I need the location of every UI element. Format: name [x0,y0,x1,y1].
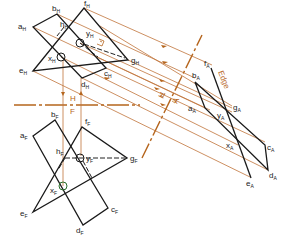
svg-text:bH: bH [52,4,60,14]
svg-text:aH: aH [18,22,26,32]
top-view-hidden-lines [57,27,125,58]
svg-text:xF: xF [50,186,57,196]
plane-abcd-top [33,14,106,78]
svg-text:gA: gA [233,103,241,113]
descriptive-geometry-drawing: H A H F aH bH fH hH yH xH [0,0,282,238]
svg-text:aA: aA [188,104,196,114]
svg-text:fF: fF [85,117,90,127]
fold-label-f: F [70,107,75,116]
svg-text:bF: bF [51,110,59,120]
svg-text:dA: dA [269,171,277,181]
fold-label-h: H [70,94,76,103]
auxiliary-view-labels: fA bA aA gA yA xA cA dA eA [188,59,277,189]
plane-efg-front [33,127,127,212]
svg-text:gH: gH [131,56,139,66]
svg-text:eH: eH [19,66,27,76]
svg-text:eA: eA [246,179,254,189]
svg-text:hH: hH [60,20,68,30]
svg-text:eF: eF [20,209,28,219]
svg-text:hF: hF [56,147,64,157]
svg-text:dF: dF [76,226,84,236]
top-view-markers [57,39,84,61]
svg-text:bA: bA [192,71,200,81]
svg-text:cA: cA [267,143,275,153]
fold-label-h-aux: H [157,91,168,100]
svg-text:xH: xH [48,54,56,64]
svg-text:fH: fH [84,0,90,9]
svg-text:cF: cF [111,205,118,215]
svg-text:fA: fA [204,59,210,69]
plane-abcd-front [33,120,108,225]
projection-lines-top-to-front [63,60,81,186]
svg-text:yF: yF [86,154,93,164]
svg-text:yA: yA [217,111,225,121]
svg-text:aF: aF [20,131,28,141]
svg-text:gF: gF [130,154,138,164]
perpendicular-mark-top [97,39,104,46]
